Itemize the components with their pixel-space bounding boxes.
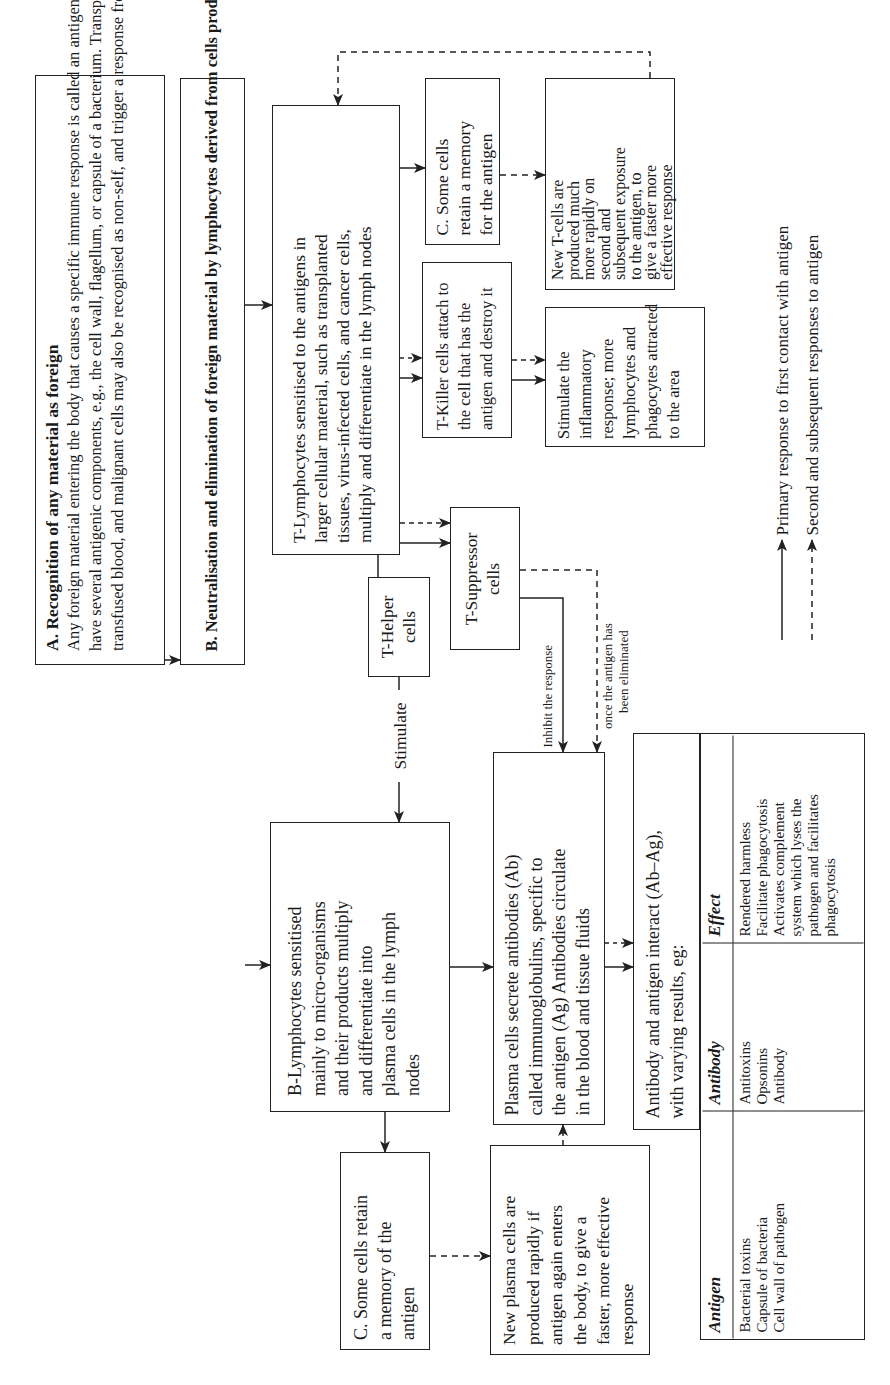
new-t-line-4: second and — [597, 88, 613, 280]
t-suppressor-line-2: cells — [482, 517, 504, 640]
box-t-helper: T-Helper cells — [368, 577, 430, 677]
box-b-lymphocytes: B-Lymphocytes sensitised mainly to micro… — [270, 822, 450, 1112]
ab-ag-line-2: with varying results, eg: — [665, 745, 689, 1118]
inflammatory-line-4: lymphocytes and — [619, 315, 641, 439]
table-cell-effect: Rendered harmless Facilitate phagocytosi… — [732, 735, 863, 943]
box-t-suppressor: T-Suppressor cells — [450, 507, 520, 650]
once-eliminated-line-1: once the antigen has — [600, 585, 616, 729]
b-memory-line-3: antigen — [397, 1162, 421, 1340]
box-a-line-1: Any foreign material entering the body t… — [63, 89, 85, 651]
ab-ag-line-1: Antibody and antigen interact (Ab–Ag), — [641, 745, 665, 1118]
antibody-item: Antitoxins — [736, 949, 753, 1104]
t-killer-line-1: T-Killer cells attach to — [432, 270, 454, 430]
b-lymph-line-4: and differentiate into — [355, 838, 379, 1096]
antigen-antibody-table: Antigen Antibody Effect Bacterial toxins… — [702, 735, 863, 1338]
stimulate-label-wrap: Stimulate — [389, 690, 411, 782]
box-b-neutralisation: B. Neutralisation and elimination of for… — [180, 78, 245, 665]
stimulate-label: Stimulate — [390, 702, 410, 769]
antigen-item: Cell wall of pathogen — [770, 1117, 787, 1332]
box-inflammatory: Stimulate the inflammatory response; mor… — [545, 307, 705, 447]
b-lymph-line-1: B-Lymphocytes sensitised — [284, 838, 308, 1096]
effect-item: Rendered harmless — [736, 741, 753, 936]
box-t-lymphocytes: T-Lymphocytes sensitised to the antigens… — [272, 105, 400, 555]
inflammatory-line-2: inflammatory — [575, 315, 597, 439]
new-t-line-5: subsequent exposure — [612, 88, 628, 280]
effect-item: system which lyses the — [787, 741, 804, 936]
inhibit-label-wrap: Inhibit the response — [540, 612, 558, 747]
table-row: Bacterial toxins Capsule of bacteria Cel… — [732, 735, 863, 1338]
legend-item-secondary: Second and subsequent responses to antig… — [798, 20, 828, 535]
new-t-line-1: New T-cells are — [550, 88, 566, 280]
t-helper-line-1: T-Helper — [376, 585, 398, 669]
plasma-line-1: Plasma cells secrete antibodies (Ab) — [501, 762, 525, 1115]
t-lymph-line-2: larger cellular material, such as transp… — [310, 117, 332, 543]
box-t-memory: C. Some cells retain a memory for the an… — [425, 78, 500, 245]
new-plasma-line-5: faster, more effective — [592, 1155, 616, 1345]
box-t-killer: T-Killer cells attach to the cell that h… — [422, 262, 512, 438]
new-t-line-6: to the antigen, to — [628, 88, 644, 280]
box-a-recognition: A. Recognition of any material as foreig… — [35, 75, 165, 665]
t-lymph-line-1: T-Lymphocytes sensitised to the antigens… — [288, 117, 310, 543]
box-b-memory: C. Some cells retain a memory of the ant… — [340, 1152, 430, 1350]
inflammatory-line-5: phagocytes attracted — [641, 315, 663, 439]
effect-item: Facilitate phagocytosis — [753, 741, 770, 936]
effect-item: Activates complement — [770, 741, 787, 936]
legend: Primary response to first contact with a… — [768, 20, 828, 535]
table-header-antigen: Antigen — [702, 1111, 732, 1339]
plasma-line-2: called immunoglobulins, specific to — [525, 762, 549, 1115]
box-a-line-2: have several antigenic components, e.g.,… — [85, 89, 107, 651]
antibody-item: Opsonins — [753, 949, 770, 1104]
t-killer-line-3: antigen and destroy it — [476, 270, 498, 430]
effect-item: pathogen and facilitates — [804, 741, 821, 936]
plasma-line-3: the antigen (Ag) Antibodies circulate — [548, 762, 572, 1115]
plasma-line-4: in the blood and tissue fluids — [572, 762, 596, 1115]
table-header-antibody: Antibody — [702, 943, 732, 1111]
box-ab-ag: Antibody and antigen interact (Ab–Ag), w… — [633, 733, 700, 1130]
inflammatory-line-1: Stimulate the — [553, 315, 575, 439]
t-lymph-line-3: tissues, virus-infected cells, and cance… — [332, 117, 354, 543]
antigen-antibody-table-wrap: Antigen Antibody Effect Bacterial toxins… — [700, 733, 865, 1340]
effect-item: phagocytosis — [821, 741, 838, 936]
b-lymph-line-2: mainly to micro-organisms — [308, 838, 332, 1096]
inflammatory-line-3: response; more — [597, 315, 619, 439]
antigen-item: Capsule of bacteria — [753, 1117, 770, 1332]
antigen-item: Bacterial toxins — [736, 1117, 753, 1332]
box-new-t-cells: New T-cells are produced much more rapid… — [545, 78, 675, 290]
t-helper-line-2: cells — [398, 585, 420, 669]
inflammatory-line-6: to the area — [663, 315, 685, 439]
new-t-line-7: give a faster more — [643, 88, 659, 280]
table-cell-antigen: Bacterial toxins Capsule of bacteria Cel… — [732, 1111, 863, 1339]
arrow-suppressor-once-eliminated — [520, 570, 597, 752]
t-killer-line-2: the cell that has the — [454, 270, 476, 430]
box-new-plasma: New plasma cells are produced rapidly if… — [490, 1145, 650, 1355]
legend-item-primary: Primary response to first contact with a… — [768, 20, 798, 535]
box-a-title: A. Recognition of any material as foreig… — [41, 89, 63, 651]
once-eliminated-label-wrap: once the antigen has been eliminated — [600, 585, 636, 735]
t-memory-line-1: C. Some cells — [430, 88, 452, 235]
b-lymph-line-5: plasma cells in the lymph — [378, 838, 402, 1096]
b-lymph-line-6: nodes — [402, 838, 426, 1096]
new-t-line-3: more rapidly on — [581, 88, 597, 280]
b-memory-line-2: a memory of the — [374, 1162, 398, 1340]
b-memory-line-1: C. Some cells retain — [350, 1162, 374, 1340]
new-plasma-line-6: response — [616, 1155, 640, 1345]
new-t-line-8: effective response — [659, 88, 675, 280]
antibody-item: Antibody — [770, 949, 787, 1104]
t-suppressor-line-1: T-Suppressor — [460, 517, 482, 640]
box-plasma-cells: Plasma cells secrete antibodies (Ab) cal… — [493, 752, 605, 1125]
t-lymph-line-4: multiply and differentiate in the lymph … — [354, 117, 376, 543]
table-cell-antibody: Antitoxins Opsonins Antibody — [732, 943, 863, 1111]
new-plasma-line-1: New plasma cells are — [498, 1155, 522, 1345]
b-lymph-line-3: and their products multiply — [331, 838, 355, 1096]
inhibit-label: Inhibit the response — [540, 644, 555, 747]
box-b-title: B. Neutralisation and elimination of for… — [202, 0, 221, 651]
box-a-line-3: transfused blood, and malignant cells ma… — [107, 89, 129, 651]
new-plasma-line-4: the body, to give a — [569, 1155, 593, 1345]
new-t-line-2: produced much — [566, 88, 582, 280]
t-memory-line-3: for the antigen — [474, 88, 496, 235]
new-plasma-line-3: antigen again enters — [545, 1155, 569, 1345]
table-header-effect: Effect — [702, 735, 732, 943]
t-memory-line-2: retain a memory — [452, 88, 474, 235]
new-plasma-line-2: produced rapidly if — [522, 1155, 546, 1345]
once-eliminated-line-2: been eliminated — [616, 585, 632, 729]
